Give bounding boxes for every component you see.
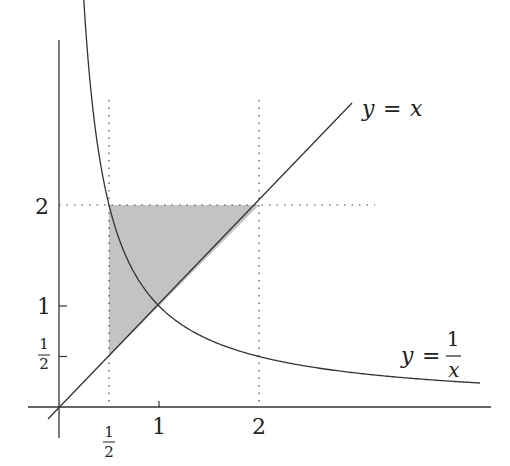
hyperbola-curve: [84, 0, 481, 383]
identity-label-lhs: y: [361, 96, 375, 121]
x-tick-label-half-num: 1: [104, 423, 114, 441]
diagram-canvas: y = x y = 1 x 2 1 1 2 1 2 1 2: [0, 0, 510, 466]
hyperbola-label-eq: =: [422, 343, 440, 368]
y-tick-label-half-num: 1: [39, 335, 49, 353]
y-tick-label-half-den: 2: [39, 355, 49, 373]
y-tick-label-2: 2: [35, 194, 49, 219]
hyperbola-label-lhs: y: [400, 343, 414, 368]
identity-label-eq: =: [383, 96, 401, 121]
hyperbola-label-den: x: [448, 358, 459, 382]
x-tick-label-half-den: 2: [104, 443, 114, 461]
x-tick-label-2: 2: [252, 414, 266, 439]
shaded-region: [109, 205, 259, 357]
y-tick-label-1: 1: [37, 294, 51, 319]
x-tick-label-1: 1: [152, 414, 166, 439]
identity-line: [48, 103, 352, 419]
hyperbola-label-num: 1: [447, 327, 460, 351]
identity-label-rhs: x: [410, 96, 423, 121]
